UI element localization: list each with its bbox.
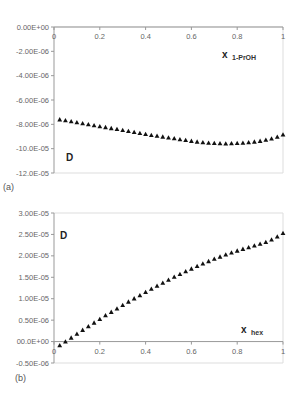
data-point-triangle	[115, 127, 120, 131]
data-point-triangle	[241, 140, 246, 144]
data-point-triangle	[275, 234, 280, 238]
data-point-triangle	[126, 299, 131, 303]
y-tick-label: 2.50E-05	[19, 230, 49, 239]
data-point-triangle	[200, 140, 205, 144]
data-point-triangle	[120, 128, 125, 132]
y-tick-label: 00.0E+00	[17, 337, 49, 346]
data-point-triangle	[109, 126, 114, 130]
y-tick-label: -0.50E-06	[16, 359, 49, 368]
x-tick-label: 0.6	[186, 347, 196, 356]
chart-a-panel-label: (a)	[3, 182, 14, 192]
y-tick-label: 1.50E-05	[19, 273, 49, 282]
data-point-triangle	[246, 245, 251, 249]
chart-a-axes: 0.00E+00-2.00E-06-4.00E-06-6.00E-06-8.00…	[16, 23, 285, 178]
data-point-triangle	[195, 139, 200, 143]
x-tick-label: 0.8	[232, 347, 242, 356]
data-point-triangle	[218, 141, 223, 145]
data-point-triangle	[103, 125, 108, 129]
data-point-triangle	[178, 137, 183, 141]
data-point-triangle	[172, 274, 177, 278]
data-point-triangle	[86, 122, 91, 126]
data-point-triangle	[92, 123, 97, 127]
data-point-triangle	[258, 139, 263, 143]
x-tick-label: 0	[52, 347, 56, 356]
y-tick-label: 3.00E-05	[19, 209, 49, 218]
x-tick-label: 0.8	[232, 32, 242, 41]
data-point-triangle	[69, 119, 74, 123]
x-tick-label: 0.2	[95, 32, 105, 41]
data-point-triangle	[109, 310, 114, 314]
data-point-triangle	[132, 130, 137, 134]
data-point-triangle	[229, 141, 234, 145]
data-point-triangle	[57, 117, 62, 121]
data-point-triangle	[137, 293, 142, 297]
data-point-triangle	[75, 120, 80, 124]
data-point-triangle	[223, 141, 228, 145]
data-point-triangle	[57, 343, 62, 347]
data-point-triangle	[235, 248, 240, 252]
data-point-triangle	[241, 247, 246, 251]
data-point-triangle	[206, 259, 211, 263]
data-point-triangle	[75, 331, 80, 335]
y-tick-label: -2.00E-06	[16, 47, 49, 56]
chart-a: 0.00E+00-2.00E-06-4.00E-06-6.00E-06-8.00…	[3, 23, 285, 193]
data-point-triangle	[143, 132, 148, 136]
x-tick-label: 0.4	[140, 347, 150, 356]
data-point-triangle	[183, 269, 188, 273]
data-point-triangle	[143, 290, 148, 294]
chart-a-xlabel-sub: 1-PrOH	[232, 54, 256, 61]
data-point-triangle	[103, 313, 108, 317]
data-point-triangle	[246, 140, 251, 144]
y-tick-label: -4.00E-06	[16, 71, 49, 80]
data-point-triangle	[149, 286, 154, 290]
data-point-triangle	[166, 277, 171, 281]
data-point-triangle	[229, 250, 234, 254]
data-point-triangle	[200, 261, 205, 265]
data-point-triangle	[183, 138, 188, 142]
data-point-triangle	[195, 264, 200, 268]
data-point-triangle	[212, 256, 217, 260]
data-point-triangle	[172, 136, 177, 140]
data-point-triangle	[80, 328, 85, 332]
x-tick-label: 1	[281, 32, 285, 41]
data-point-triangle	[189, 266, 194, 270]
y-tick-label: -12.0E-05	[16, 169, 49, 178]
chart-a-points	[57, 117, 285, 145]
data-point-triangle	[97, 124, 102, 128]
data-point-triangle	[258, 241, 263, 245]
data-point-triangle	[160, 280, 165, 284]
data-point-triangle	[275, 134, 280, 138]
data-point-triangle	[166, 135, 171, 139]
data-point-triangle	[252, 243, 257, 247]
y-tick-label: -8.00E-06	[16, 120, 49, 129]
y-tick-label: -10.0E-05	[16, 144, 49, 153]
data-point-triangle	[189, 139, 194, 143]
data-point-triangle	[69, 335, 74, 339]
x-tick-label: 0	[52, 32, 56, 41]
x-tick-label: 1	[281, 347, 285, 356]
figure: 0.00E+00-2.00E-06-4.00E-06-6.00E-06-8.00…	[0, 0, 297, 398]
data-point-triangle	[269, 237, 274, 241]
data-point-triangle	[97, 317, 102, 321]
y-tick-label: 2.00E-05	[19, 251, 49, 260]
chart-a-xlabel: x	[222, 49, 228, 60]
data-point-triangle	[80, 121, 85, 125]
x-tick-label: 0.4	[140, 32, 150, 41]
data-point-triangle	[160, 134, 165, 138]
data-point-triangle	[137, 131, 142, 135]
data-point-triangle	[252, 139, 257, 143]
chart-b: 3.00E-052.50E-052.00E-051.50E-051.00E-05…	[15, 209, 285, 384]
chart-b-xlabel: x	[241, 324, 247, 335]
data-point-triangle	[120, 303, 125, 307]
data-point-triangle	[281, 132, 286, 136]
data-point-triangle	[92, 320, 97, 324]
data-point-triangle	[115, 306, 120, 310]
data-point-triangle	[178, 272, 183, 276]
chart-b-xlabel-sub: hex	[251, 329, 263, 336]
data-point-triangle	[149, 133, 154, 137]
data-point-triangle	[223, 252, 228, 256]
data-point-triangle	[263, 240, 268, 244]
data-point-triangle	[63, 118, 68, 122]
chart-a-ylabel: D	[66, 152, 73, 163]
y-tick-label: 0.50E-06	[19, 316, 49, 325]
